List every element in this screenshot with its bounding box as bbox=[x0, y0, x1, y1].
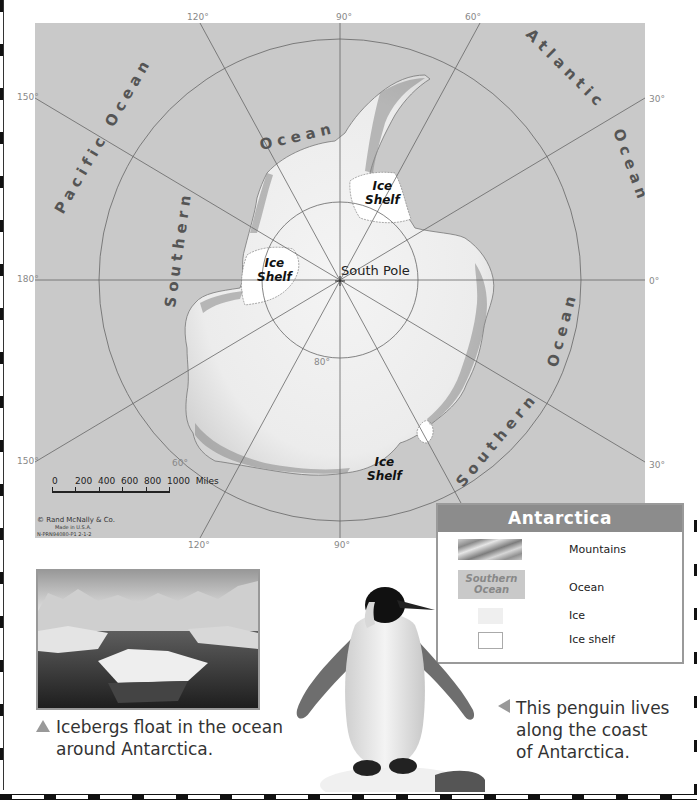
lon-label-120-top: 120° bbox=[187, 12, 209, 22]
lon-label-60-top: 60° bbox=[465, 12, 481, 22]
icebergs-photo bbox=[36, 569, 260, 710]
antarctica-map: Pacific Ocean Ocean Southern Atlantic Oc… bbox=[35, 23, 680, 538]
map-graphic: Pacific Ocean Ocean Southern Atlantic Oc… bbox=[35, 23, 680, 538]
scale-bar bbox=[52, 487, 170, 493]
icebergs-image bbox=[38, 571, 258, 708]
page-edge-line bbox=[3, 0, 4, 790]
lat-label-80: 80° bbox=[314, 357, 330, 367]
lon-label-180-left: 180° bbox=[17, 274, 39, 284]
south-pole-label: South Pole bbox=[341, 263, 410, 278]
triangle-up-icon bbox=[36, 720, 50, 732]
map-credit: © Rand McNally & Co. Made in U.S.A. N-PR… bbox=[37, 517, 115, 538]
lon-label-150-left: 150° bbox=[17, 92, 39, 102]
lon-label-30-right-bottom: 30° bbox=[649, 460, 665, 470]
lon-label-90-bottom: 90° bbox=[334, 540, 350, 550]
mountains-swatch bbox=[458, 539, 522, 560]
ice-shelf-label-weddell: IceShelf bbox=[365, 179, 400, 207]
map-scale: 02004006008001000 Miles bbox=[52, 476, 219, 493]
scale-labels: 02004006008001000 Miles bbox=[52, 476, 219, 486]
lon-label-90-top: 90° bbox=[336, 12, 352, 22]
icebergs-caption: Icebergs float in the ocean around Antar… bbox=[36, 716, 283, 760]
lat-label-60: 60° bbox=[172, 458, 188, 468]
lon-label-150-left-bottom: 150° bbox=[17, 456, 39, 466]
lon-label-30-right: 30° bbox=[649, 94, 665, 104]
legend-title: Antarctica bbox=[438, 505, 682, 532]
page-edge-bottom bbox=[0, 794, 697, 800]
penguin-photo bbox=[285, 580, 485, 792]
ice-shelf-label-ross: IceShelf bbox=[257, 256, 292, 284]
ice-shelf-label-amery: IceShelf bbox=[367, 455, 402, 483]
penguin-caption: This penguin lives along the coast of An… bbox=[498, 697, 669, 763]
triangle-left-icon bbox=[498, 699, 510, 713]
lon-label-120-bottom: 120° bbox=[188, 540, 210, 550]
lon-label-0-right: 0° bbox=[649, 276, 659, 286]
